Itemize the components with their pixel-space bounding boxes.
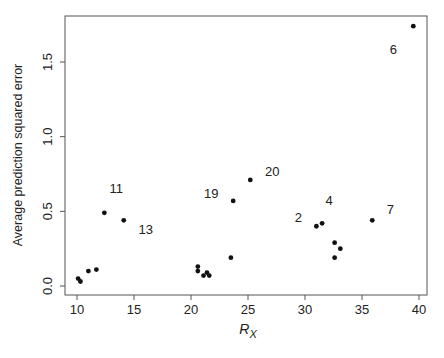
data-point	[195, 264, 200, 269]
point-label: 11	[110, 181, 124, 196]
data-point	[231, 198, 236, 203]
data-point	[121, 218, 126, 223]
data-points	[76, 24, 416, 284]
x-tick-label: 35	[355, 302, 369, 317]
point-label: 19	[204, 186, 218, 201]
y-axis: 0.00.51.01.5	[40, 53, 65, 295]
data-point	[370, 218, 375, 223]
point-label: 7	[387, 202, 394, 217]
y-tick-label: 0.0	[40, 277, 55, 295]
data-point	[338, 246, 343, 251]
x-tick-label: 15	[127, 302, 141, 317]
data-point	[411, 24, 416, 29]
x-tick-label: 10	[70, 302, 84, 317]
plot-frame	[65, 16, 427, 295]
data-point	[102, 210, 107, 215]
data-point	[229, 255, 234, 260]
x-tick-label: 30	[298, 302, 312, 317]
x-tick-label: 20	[184, 302, 198, 317]
data-point	[248, 178, 253, 183]
data-point	[94, 267, 99, 272]
data-point	[86, 269, 91, 274]
point-label: 2	[295, 210, 302, 225]
x-tick-label: 25	[241, 302, 255, 317]
data-point	[320, 221, 325, 226]
x-axis-label: RX	[239, 321, 257, 340]
data-point	[314, 224, 319, 229]
y-tick-label: 1.0	[40, 128, 55, 146]
data-point	[332, 240, 337, 245]
y-tick-label: 1.5	[40, 53, 55, 71]
y-axis-label: Average prediction squared error	[11, 64, 25, 247]
scatter-chart: 10152025303540 0.00.51.01.5 111319202476…	[0, 0, 444, 358]
point-label: 13	[139, 222, 153, 237]
data-point	[207, 273, 212, 278]
x-axis: 10152025303540	[70, 295, 426, 317]
data-point	[78, 279, 83, 284]
data-point	[332, 255, 337, 260]
point-labels: 111319202476	[110, 42, 397, 237]
y-tick-label: 0.5	[40, 202, 55, 220]
x-tick-label: 40	[412, 302, 426, 317]
data-point	[195, 269, 200, 274]
point-label: 20	[265, 164, 279, 179]
point-label: 6	[390, 42, 397, 57]
point-label: 4	[325, 193, 332, 208]
